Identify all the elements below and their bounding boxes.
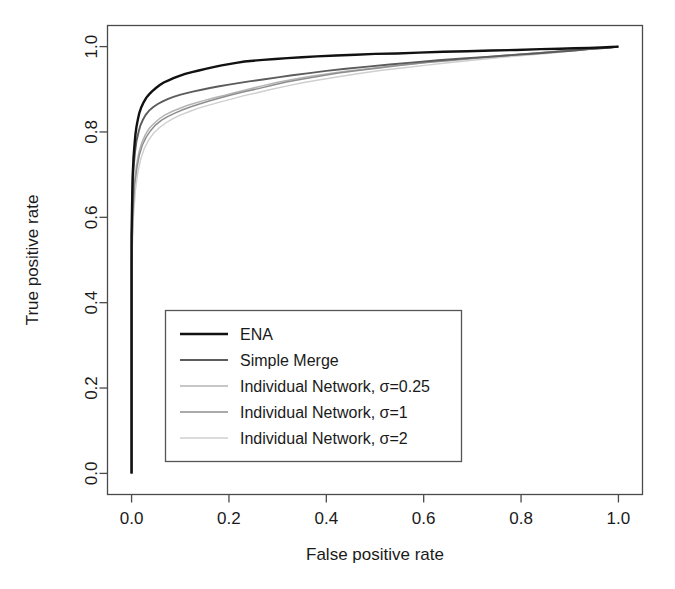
y-tick-label: 0.6 (82, 206, 101, 230)
y-tick-label: 1.0 (82, 35, 101, 59)
roc-curve-figure: 0.00.20.40.60.81.0 0.00.20.40.60.81.0 Fa… (0, 0, 675, 589)
x-tick-label: 0.4 (314, 509, 338, 528)
legend-label-5: Individual Network, σ=2 (240, 430, 408, 447)
plot-canvas: 0.00.20.40.60.81.0 0.00.20.40.60.81.0 Fa… (0, 0, 675, 589)
x-tick-label: 1.0 (607, 509, 631, 528)
y-tick-label: 0.2 (82, 376, 101, 400)
x-tick-label: 0.2 (217, 509, 241, 528)
legend: ENASimple MergeIndividual Network, σ=0.2… (166, 311, 462, 462)
x-tick-label: 0.8 (509, 509, 533, 528)
legend-label-1: ENA (240, 326, 273, 343)
legend-label-3: Individual Network, σ=0.25 (240, 378, 430, 395)
x-tick-label: 0.6 (412, 509, 436, 528)
figure-background (0, 0, 675, 589)
legend-label-4: Individual Network, σ=1 (240, 404, 408, 421)
y-tick-label: 0.4 (82, 291, 101, 315)
legend-label-2: Simple Merge (240, 352, 339, 369)
y-tick-label: 0.0 (82, 462, 101, 486)
y-tick-label: 0.8 (82, 120, 101, 144)
y-axis-title: True positive rate (23, 195, 42, 326)
x-tick-label: 0.0 (120, 509, 144, 528)
x-axis-title: False positive rate (306, 545, 444, 564)
